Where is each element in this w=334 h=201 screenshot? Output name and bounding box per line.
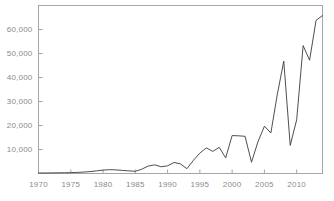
- y-axis-tick-label: 60,000: [0, 25, 33, 34]
- x-axis-tick-label: 1985: [119, 180, 151, 189]
- plot-frame: [39, 6, 323, 174]
- x-axis-tick-label: 2010: [281, 180, 313, 189]
- x-axis-tick-label: 1995: [184, 180, 216, 189]
- data-series-line: [39, 16, 323, 173]
- y-axis-tick-label: 40,000: [0, 73, 33, 82]
- y-axis-tick-label: 30,000: [0, 97, 33, 106]
- x-axis-tick-label: 1990: [152, 180, 184, 189]
- y-axis-tick-label: 50,000: [0, 49, 33, 58]
- chart-plot-area: [0, 0, 334, 201]
- x-axis-tick-label: 2000: [216, 180, 248, 189]
- x-axis-tick-label: 1980: [87, 180, 119, 189]
- y-axis-tick-label: 20,000: [0, 121, 33, 130]
- x-axis-tick-label: 1970: [23, 180, 55, 189]
- x-axis-tick-label: 2005: [248, 180, 280, 189]
- line-chart: 10,00020,00030,00040,00050,00060,0001970…: [0, 0, 334, 201]
- x-axis-tick-label: 1975: [55, 180, 87, 189]
- y-axis-tick-label: 10,000: [0, 145, 33, 154]
